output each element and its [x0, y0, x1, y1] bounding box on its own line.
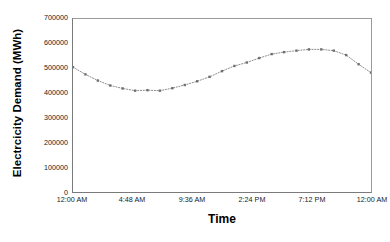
x-tick-label: 12:00 AM: [357, 196, 387, 203]
data-point-marker: [121, 87, 123, 89]
data-point-marker: [283, 51, 285, 53]
data-point-marker: [345, 54, 347, 56]
data-point-marker: [134, 89, 136, 91]
data-point-marker: [357, 63, 359, 65]
y-tick-label: 600000: [28, 39, 72, 46]
data-point-marker: [184, 84, 186, 86]
plot-area: [72, 18, 372, 193]
data-point-marker: [97, 79, 99, 81]
y-tick-label: 300000: [28, 114, 72, 121]
y-tick-label: 500000: [28, 64, 72, 71]
y-tick-label: 400000: [28, 89, 72, 96]
y-axis-tick-labels: 7000006000005000004000003000002000001000…: [28, 0, 72, 242]
caption-text: [0, 233, 390, 242]
chart-page: Electrcicity Demand (MWh) 70000060000050…: [0, 0, 390, 242]
data-point-marker: [320, 48, 322, 50]
x-axis-title: Time: [72, 212, 372, 226]
demand-series: [73, 48, 371, 92]
x-tick-label: 2:24 PM: [239, 196, 266, 203]
chart-svg: [73, 19, 371, 192]
data-point-marker: [109, 84, 111, 86]
data-point-marker: [270, 53, 272, 55]
data-point-marker: [84, 73, 86, 75]
y-tick-label: 700000: [28, 14, 72, 21]
x-axis-tick-labels: 12:00 AM4:48 AM9:36 AM2:24 PM7:12 PM12:0…: [72, 196, 372, 210]
y-tick-label: 200000: [28, 139, 72, 146]
data-point-marker: [171, 87, 173, 89]
x-tick-label: 4:48 AM: [119, 196, 145, 203]
data-point-marker: [233, 65, 235, 67]
data-point-marker: [333, 49, 335, 51]
data-point-marker: [73, 66, 74, 68]
data-point-marker: [208, 76, 210, 78]
data-point-marker: [308, 48, 310, 50]
y-axis-title-label: Electrcicity Demand (MWh): [11, 28, 23, 176]
x-tick-label: 9:36 AM: [179, 196, 205, 203]
data-point-marker: [146, 89, 148, 91]
data-point-marker: [196, 80, 198, 82]
data-point-marker: [159, 89, 161, 91]
data-point-marker: [258, 57, 260, 59]
data-point-marker: [295, 49, 297, 51]
data-point-marker: [221, 70, 223, 72]
data-point-marker: [246, 61, 248, 63]
x-tick-label: 12:00 AM: [57, 196, 87, 203]
y-tick-label: 100000: [28, 164, 72, 171]
x-tick-label: 7:12 PM: [299, 196, 326, 203]
data-point-marker: [370, 71, 371, 73]
